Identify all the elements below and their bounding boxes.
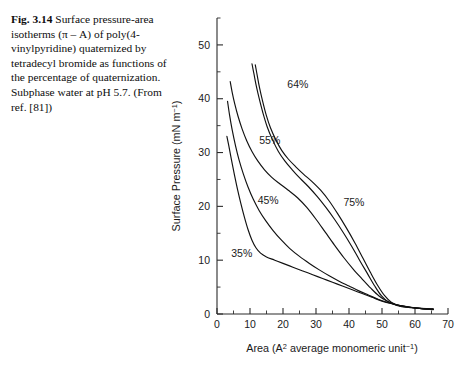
series-label-75pct: 75% xyxy=(343,196,364,208)
y-axis-tick-labels: 01020304050 xyxy=(198,39,210,320)
series-curve-75pct xyxy=(255,65,433,309)
y-axis-title: Surface Pressure (mN m−1) xyxy=(170,101,182,232)
x-tick-label: 20 xyxy=(277,318,289,330)
x-tick-label: 40 xyxy=(343,318,355,330)
x-tick-label: 0 xyxy=(214,318,220,330)
chart-plot-area: 01020304050 010203040506070 35%45%55%64%… xyxy=(160,0,474,367)
isotherm-chart: 01020304050 010203040506070 35%45%55%64%… xyxy=(160,0,474,367)
figure-container: Fig. 3.14 Surface pressure-area isotherm… xyxy=(0,0,474,367)
y-tick-label: 50 xyxy=(198,39,210,51)
x-axis-tick-labels: 010203040506070 xyxy=(214,318,454,330)
x-tick-label: 30 xyxy=(310,318,322,330)
y-tick-label: 30 xyxy=(198,146,210,158)
figure-caption-text: Surface pressure-area isotherms (π – A) … xyxy=(11,13,167,113)
y-axis-ticks xyxy=(217,18,223,314)
series-label-64pct: 64% xyxy=(287,78,308,90)
x-tick-label: 10 xyxy=(244,318,256,330)
y-tick-label: 20 xyxy=(198,200,210,212)
figure-caption: Fig. 3.14 Surface pressure-area isotherm… xyxy=(11,12,179,114)
series-label-45pct: 45% xyxy=(258,194,279,206)
chart-series-curves xyxy=(227,64,433,310)
series-curve-35pct xyxy=(227,136,433,309)
series-label-55pct: 55% xyxy=(259,134,280,146)
x-axis-title: Area (A2 average monomeric unit−1) xyxy=(246,342,418,354)
x-axis-ticks xyxy=(217,308,448,314)
figure-number: Fig. 3.14 xyxy=(11,13,52,25)
y-tick-label: 10 xyxy=(198,254,210,266)
series-curve-64pct xyxy=(252,64,433,309)
y-tick-label: 0 xyxy=(204,308,210,320)
x-tick-label: 70 xyxy=(442,318,454,330)
x-tick-label: 60 xyxy=(409,318,421,330)
chart-axes xyxy=(217,18,448,314)
x-tick-label: 50 xyxy=(376,318,388,330)
series-label-35pct: 35% xyxy=(231,247,252,259)
y-tick-label: 40 xyxy=(198,92,210,104)
